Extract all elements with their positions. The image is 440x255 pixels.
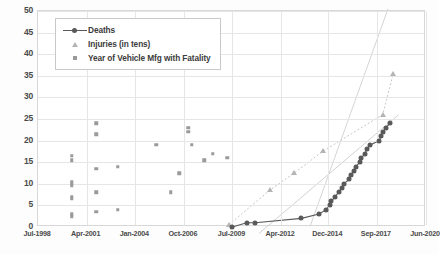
x-axis: Jul-1998Apr-2001Jan-2004Oct-2006Jul-2009…	[0, 229, 438, 249]
vehicle-year-point	[190, 143, 194, 147]
x-axis-tick-label: Jul-2009	[218, 229, 245, 238]
gridline-vertical	[377, 11, 378, 225]
gridline-horizontal	[38, 11, 424, 12]
vehicle-year-point	[187, 126, 191, 130]
deaths-point	[348, 173, 353, 178]
vehicle-year-point	[202, 158, 206, 162]
x-axis-tick-label: Oct-2006	[168, 229, 197, 238]
gridline-horizontal	[38, 76, 424, 77]
vehicle-year-point	[211, 152, 215, 156]
x-axis-tick-label: Apr-2001	[71, 229, 100, 238]
vehicle-year-point	[70, 214, 74, 218]
deaths-point	[327, 203, 332, 208]
deaths-point	[244, 220, 249, 225]
deaths-point	[253, 220, 258, 225]
x-axis-tick-label: Jan-2004	[120, 229, 149, 238]
vehicle-year-point	[169, 191, 173, 195]
deaths-point	[384, 125, 389, 130]
gridline-horizontal	[38, 141, 424, 142]
deaths-point	[347, 177, 352, 182]
deaths-point	[359, 155, 364, 160]
vehicle-year-point	[155, 143, 159, 147]
legend-label-vehicle-year: Year of Vehicle Mfg with Fatality	[88, 53, 211, 63]
x-axis-tick-label: Jul-1998	[23, 229, 50, 238]
y-axis-tick-label: 5	[3, 199, 33, 209]
deaths-point	[380, 129, 385, 134]
deaths-point	[364, 147, 369, 152]
vehicle-year-point	[116, 208, 120, 212]
deaths-point	[317, 212, 322, 217]
x-axis-tick-label: Dec-2014	[312, 229, 342, 238]
y-axis-tick-label: 40	[3, 48, 33, 58]
vehicle-year-point	[70, 154, 74, 158]
deaths-point	[357, 160, 362, 165]
vehicle-year-point	[225, 156, 229, 160]
deaths-point	[340, 186, 345, 191]
gridline-horizontal	[38, 205, 424, 206]
injuries-point	[291, 170, 297, 175]
y-axis-tick-label: 45	[3, 27, 33, 37]
gridline-vertical	[281, 11, 282, 225]
deaths-point	[387, 121, 392, 126]
deaths-point	[368, 142, 373, 147]
gridline-vertical	[426, 11, 427, 225]
triangle-marker-icon	[62, 42, 88, 47]
deaths-point	[378, 134, 383, 139]
gridline-horizontal	[38, 162, 424, 163]
deaths-line-marker-icon	[62, 27, 88, 34]
deaths-point	[354, 164, 359, 169]
y-axis-tick-label: 10	[3, 178, 33, 188]
legend-label-deaths: Deaths	[88, 25, 115, 35]
gridline-vertical	[328, 11, 329, 225]
injuries-point	[320, 148, 326, 153]
deaths-point	[329, 199, 334, 204]
injuries-point	[390, 71, 396, 76]
y-axis-tick-label: 35	[3, 70, 33, 80]
y-axis-tick-label: 30	[3, 91, 33, 101]
vehicle-year-point	[95, 191, 99, 195]
legend-item-deaths: Deaths	[62, 23, 211, 37]
gridline-vertical	[232, 11, 233, 225]
vehicle-year-point	[95, 210, 99, 214]
y-axis-tick-label: 15	[3, 156, 33, 166]
vehicle-year-point	[70, 184, 74, 188]
deaths-point	[332, 194, 337, 199]
series-polyline	[232, 123, 389, 227]
vehicle-year-point	[70, 158, 74, 162]
vehicle-year-point	[178, 171, 182, 175]
deaths-point	[352, 168, 357, 173]
gridline-horizontal	[38, 184, 424, 185]
legend-label-injuries: Injuries (in tens)	[88, 39, 150, 49]
y-axis-tick-label: 20	[3, 135, 33, 145]
vehicle-year-point	[70, 197, 74, 201]
deaths-point	[363, 151, 368, 156]
deaths-point	[377, 138, 382, 143]
y-axis: 05101520253035404550	[0, 0, 33, 236]
legend-item-injuries: Injuries (in tens)	[62, 37, 211, 51]
gridline-horizontal	[38, 97, 424, 98]
gridline-horizontal	[38, 119, 424, 120]
square-marker-icon	[62, 56, 88, 60]
x-axis-tick-label: Sep-2017	[361, 229, 391, 238]
deaths-point	[341, 181, 346, 186]
chart-legend: Deaths Injuries (in tens) Year of Vehicl…	[55, 18, 221, 70]
injuries-point	[380, 112, 386, 117]
deaths-point	[299, 216, 304, 221]
deaths-point	[336, 190, 341, 195]
legend-item-vehicle-year: Year of Vehicle Mfg with Fatality	[62, 51, 211, 65]
deaths-point	[324, 207, 329, 212]
injuries-point	[267, 187, 273, 192]
vehicle-year-point	[116, 165, 120, 169]
vehicle-year-point	[95, 122, 99, 126]
vehicle-year-point	[95, 132, 99, 136]
vehicle-year-point	[187, 130, 191, 134]
x-axis-tick-label: Jun-2020	[410, 229, 440, 238]
y-axis-tick-label: 25	[3, 113, 33, 123]
vehicle-year-point	[95, 167, 99, 171]
x-axis-tick-label: Apr-2012	[265, 229, 294, 238]
y-axis-tick-label: 50	[3, 5, 33, 15]
